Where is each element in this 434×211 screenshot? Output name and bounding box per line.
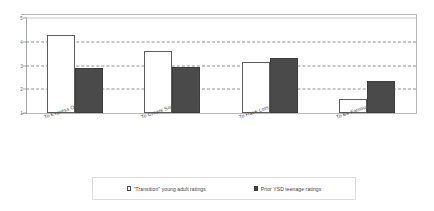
chart-screenshot: 12345 To Express OneselfTo Create Someth…	[0, 0, 434, 211]
filled-square-marker-icon	[254, 186, 259, 191]
open-square-marker-icon	[127, 186, 132, 191]
legend-item: "Transition" young adult ratings	[127, 186, 206, 192]
bar	[367, 81, 395, 113]
chart-legend: "Transition" young adult ratings Prior Y…	[92, 177, 356, 200]
bar	[47, 35, 75, 113]
legend-item-label: "Transition" young adult ratings	[134, 186, 206, 192]
x-axis-labels: To Express OneselfTo Create Something Ne…	[0, 114, 434, 170]
legend-item: Prior YSD teenage ratings	[254, 186, 322, 192]
legend-item-label: Prior YSD teenage ratings	[261, 186, 322, 192]
